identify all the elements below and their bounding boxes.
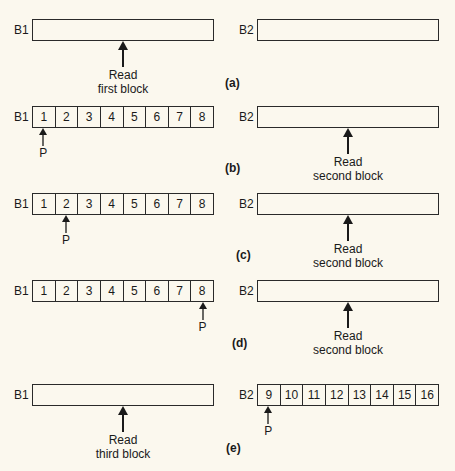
buffer-cell: 8 bbox=[191, 281, 213, 301]
buffer-cell: 5 bbox=[124, 281, 147, 301]
buffer-b1: 12345678 bbox=[32, 106, 214, 128]
buffer-cell: 7 bbox=[169, 107, 192, 127]
caption-line: third block bbox=[78, 447, 168, 461]
pointer-arrow-icon bbox=[264, 406, 272, 424]
buffer-cell: 6 bbox=[146, 194, 169, 214]
caption-line: Read bbox=[78, 68, 168, 82]
buffer-cell: 16 bbox=[416, 385, 438, 405]
buffer-b2-label: B2 bbox=[239, 110, 254, 124]
read-arrow-icon bbox=[118, 406, 128, 432]
pointer-arrow-icon bbox=[62, 215, 70, 233]
buffer-cell: 15 bbox=[394, 385, 417, 405]
buffer-cell: 8 bbox=[191, 194, 213, 214]
buffer-b1-label: B1 bbox=[14, 284, 29, 298]
caption-line: Read bbox=[303, 155, 393, 169]
buffer-cell: 5 bbox=[124, 107, 147, 127]
buffer-b1 bbox=[32, 19, 214, 41]
buffer-b1-label: B1 bbox=[14, 388, 29, 402]
buffer-cell: 4 bbox=[101, 281, 124, 301]
buffer-b2: 910111213141516 bbox=[257, 384, 439, 406]
pointer-label: P bbox=[198, 320, 208, 334]
caption-line: Read bbox=[303, 329, 393, 343]
read-arrow-icon bbox=[118, 41, 128, 67]
caption-line: second block bbox=[303, 256, 393, 270]
caption-line: Read bbox=[303, 242, 393, 256]
buffer-cell: 3 bbox=[78, 107, 101, 127]
buffer-cell: 10 bbox=[281, 385, 304, 405]
buffer-cell: 4 bbox=[101, 194, 124, 214]
read-caption: Readthird block bbox=[78, 433, 168, 461]
pointer-label: P bbox=[263, 424, 273, 438]
read-caption: Readsecond block bbox=[303, 329, 393, 357]
caption-line: second block bbox=[303, 343, 393, 357]
buffer-b2-label: B2 bbox=[239, 284, 254, 298]
buffer-cell: 2 bbox=[56, 281, 79, 301]
read-caption: Readsecond block bbox=[303, 242, 393, 270]
buffer-cell: 9 bbox=[258, 385, 281, 405]
buffer-cell: 12 bbox=[326, 385, 349, 405]
buffer-cell: 1 bbox=[33, 194, 56, 214]
buffer-b2-label: B2 bbox=[239, 23, 254, 37]
buffer-cell: 14 bbox=[371, 385, 394, 405]
read-arrow-icon bbox=[343, 128, 353, 154]
buffer-cell: 3 bbox=[78, 194, 101, 214]
buffer-cell: 2 bbox=[56, 194, 79, 214]
buffer-b1-label: B1 bbox=[14, 197, 29, 211]
buffer-b1: 12345678 bbox=[32, 280, 214, 302]
part-label: (b) bbox=[225, 161, 240, 175]
pointer-arrow-icon bbox=[199, 302, 207, 320]
buffer-cell: 6 bbox=[146, 107, 169, 127]
part-label: (c) bbox=[236, 248, 251, 262]
buffer-cell: 3 bbox=[78, 281, 101, 301]
buffer-b1-label: B1 bbox=[14, 110, 29, 124]
buffer-b2 bbox=[257, 193, 439, 215]
part-label: (e) bbox=[226, 441, 241, 455]
part-label: (a) bbox=[225, 76, 240, 90]
buffer-b2-label: B2 bbox=[239, 197, 254, 211]
buffer-cell: 1 bbox=[33, 107, 56, 127]
read-caption: Readsecond block bbox=[303, 155, 393, 183]
buffer-b2 bbox=[257, 280, 439, 302]
buffer-cell: 2 bbox=[56, 107, 79, 127]
buffer-b2 bbox=[257, 19, 439, 41]
buffer-b2 bbox=[257, 106, 439, 128]
buffer-cell: 13 bbox=[349, 385, 372, 405]
buffer-b2-label: B2 bbox=[239, 388, 254, 402]
pointer-label: P bbox=[61, 233, 71, 247]
buffer-cell: 6 bbox=[146, 281, 169, 301]
pointer-arrow-icon bbox=[39, 128, 47, 146]
caption-line: Read bbox=[78, 433, 168, 447]
buffer-cell: 5 bbox=[124, 194, 147, 214]
read-arrow-icon bbox=[343, 302, 353, 328]
buffer-cell: 7 bbox=[169, 281, 192, 301]
buffer-cell: 1 bbox=[33, 281, 56, 301]
read-caption: Readfirst block bbox=[78, 68, 168, 96]
buffer-b1-label: B1 bbox=[14, 23, 29, 37]
part-label: (d) bbox=[232, 336, 247, 350]
buffer-b1 bbox=[32, 384, 214, 406]
buffer-cell: 7 bbox=[169, 194, 192, 214]
buffer-cell: 11 bbox=[303, 385, 326, 405]
caption-line: second block bbox=[303, 169, 393, 183]
pointer-label: P bbox=[38, 146, 48, 160]
read-arrow-icon bbox=[343, 215, 353, 241]
buffer-b1: 12345678 bbox=[32, 193, 214, 215]
buffer-cell: 8 bbox=[191, 107, 213, 127]
buffer-cell: 4 bbox=[101, 107, 124, 127]
caption-line: first block bbox=[78, 82, 168, 96]
